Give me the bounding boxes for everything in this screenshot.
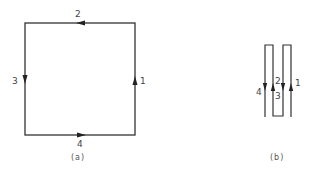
arrow-down-icon <box>281 83 285 91</box>
diagram-b: 4 3 2 1 (b) <box>256 45 301 162</box>
label-leg3: 3 <box>275 91 281 101</box>
diagram-a: 2 3 1 4 (a) <box>12 9 146 162</box>
arrow-down-icon <box>23 75 28 84</box>
label-left: 3 <box>12 76 18 86</box>
caption-a: (a) <box>71 153 85 162</box>
label-bottom: 4 <box>77 139 83 149</box>
arrow-up-icon <box>289 83 293 91</box>
arrow-down-icon <box>263 83 267 91</box>
diagram-canvas: 2 3 1 4 (a) 4 3 2 1 (b) <box>0 0 313 174</box>
caption-b: (b) <box>270 153 284 162</box>
label-right: 1 <box>140 76 146 86</box>
label-top: 2 <box>75 9 81 19</box>
label-leg2: 2 <box>275 76 281 86</box>
label-leg4: 4 <box>256 87 262 97</box>
arrow-left-icon <box>76 21 85 26</box>
square-loop <box>25 23 135 135</box>
arrow-up-icon <box>133 76 138 85</box>
arrow-right-icon <box>77 133 86 138</box>
label-leg1: 1 <box>295 78 301 88</box>
